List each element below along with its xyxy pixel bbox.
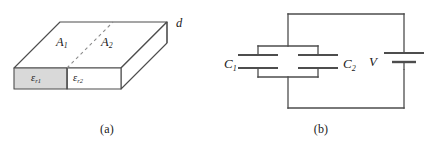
- label-area-2-subscript: 2: [109, 41, 113, 50]
- label-area-2: A2: [101, 36, 113, 49]
- label-dielectric-1: εr1: [31, 73, 41, 84]
- label-voltage-source: V: [369, 55, 377, 68]
- label-area-1: A1: [56, 36, 68, 49]
- panel-a-slab-capacitor: A1 A2 d εr1 εr2 (a): [0, 0, 214, 151]
- label-area-1-subscript: 1: [64, 41, 68, 50]
- label-capacitor-1: C1: [224, 57, 237, 70]
- caption-panel-b: (b): [214, 122, 428, 137]
- label-dielectric-1-subscript: r1: [35, 77, 41, 84]
- figure-root: A1 A2 d εr1 εr2 (a): [0, 0, 428, 151]
- panel-b-circuit: C1 C2 V (b): [214, 0, 428, 151]
- label-dielectric-2-subscript: r2: [77, 77, 83, 84]
- label-thickness-d: d: [176, 17, 182, 30]
- label-capacitor-1-subscript: 1: [233, 64, 237, 73]
- label-dielectric-2: εr2: [73, 73, 83, 84]
- label-capacitor-2: C2: [343, 57, 356, 70]
- label-capacitor-2-subscript: 2: [352, 64, 356, 73]
- caption-panel-a: (a): [0, 122, 214, 137]
